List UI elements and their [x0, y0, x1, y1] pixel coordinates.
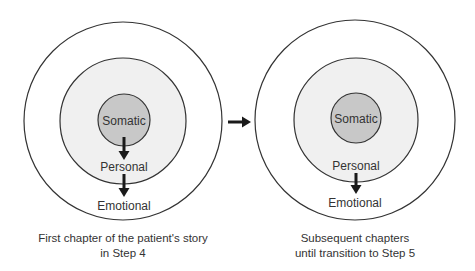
left-caption: First chapter of the patient's story in …	[38, 231, 208, 261]
transition-arrow	[228, 117, 251, 128]
left-somatic-label: Somatic	[102, 114, 145, 128]
right-emotional-label: Emotional	[328, 196, 381, 210]
left-emotional-label: Emotional	[97, 199, 150, 213]
right-caption-line2: until transition to Step 5	[295, 246, 415, 261]
left-caption-line2: in Step 4	[38, 246, 208, 261]
right-somatic-label: Somatic	[334, 112, 377, 126]
left-personal-label: Personal	[100, 160, 147, 174]
right-caption: Subsequent chapters until transition to …	[295, 231, 415, 261]
left-caption-line1: First chapter of the patient's story	[38, 231, 208, 246]
right-personal-label: Personal	[332, 159, 379, 173]
right-caption-line1: Subsequent chapters	[295, 231, 415, 246]
